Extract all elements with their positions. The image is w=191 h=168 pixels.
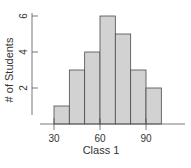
- x-tick-label: 30: [48, 133, 60, 144]
- histogram-bar: [146, 88, 161, 124]
- histogram-bar: [85, 52, 100, 124]
- x-axis-label: Class 1: [83, 144, 120, 156]
- y-axis: 246: [18, 13, 38, 115]
- y-axis-label: # of Students: [3, 37, 15, 102]
- y-tick-label: 6: [18, 13, 29, 19]
- chart-svg: 246 306090 Class 1 # of Students: [0, 0, 191, 168]
- y-tick-label: 4: [18, 49, 29, 55]
- histogram-bar: [69, 70, 84, 124]
- histogram-bar: [115, 34, 130, 124]
- y-tick-label: 2: [18, 85, 29, 91]
- histogram-chart: 246 306090 Class 1 # of Students: [0, 0, 191, 168]
- histogram-bar: [131, 70, 146, 124]
- histogram-bar: [100, 16, 115, 124]
- x-tick-label: 90: [140, 133, 152, 144]
- histogram-bar: [54, 106, 69, 124]
- x-tick-label: 60: [94, 133, 106, 144]
- bars-group: [54, 16, 161, 124]
